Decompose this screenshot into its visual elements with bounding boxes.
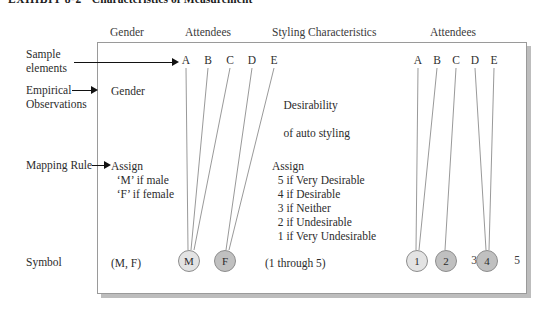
row-label-mapping-rule: Mapping Rule (26, 159, 92, 173)
sample-element-right-b: B (431, 54, 443, 66)
symbol-circle-1: 1 (406, 250, 428, 272)
symbol-circle-2: 2 (435, 250, 457, 272)
symbol-set-left: (M, F) (111, 256, 141, 270)
sample-element-right-c: C (450, 54, 462, 66)
mapping-rule-left: Assign ‘M’ if male ‘F’ if female (111, 159, 174, 201)
row-label-sample-elements: Sample elements (26, 48, 67, 75)
empirical-observation-left: Gender (111, 84, 145, 98)
symbol-circle-4: 4 (476, 250, 498, 272)
exhibit-caption: Characteristics of Measurement (92, 0, 253, 5)
empirical-observation-right-line1: Desirability (284, 99, 338, 111)
row-label-empirical-line1: Empirical (26, 84, 71, 96)
symbol-circle-m: M (178, 250, 200, 272)
column-header-attendees-right: Attendees (430, 26, 476, 38)
exhibit-title: EXHIBIT 8-2Characteristics of Measuremen… (8, 0, 252, 5)
empirical-observation-right: Desirability of auto styling (272, 84, 350, 154)
symbol-plain-5: 5 (511, 254, 523, 266)
sample-element-left-b: B (202, 54, 214, 66)
row-label-sample-elements-line2: elements (26, 62, 67, 74)
mapping-rule-right: Assign 5 if Very Desirable 4 if Desirabl… (272, 159, 376, 243)
sample-element-left-d: D (246, 54, 258, 66)
sample-element-left-c: C (224, 54, 236, 66)
sample-element-left-e: E (268, 54, 280, 66)
column-header-styling-characteristics: Styling Characteristics (272, 26, 376, 38)
exhibit-number: EXHIBIT 8-2 (8, 0, 82, 5)
symbol-circle-f: F (214, 250, 236, 272)
sample-element-right-d: D (469, 54, 481, 66)
row-label-symbol: Symbol (26, 256, 62, 270)
sample-element-left-a: A (180, 54, 192, 66)
leader-line-sample-elements (74, 62, 174, 63)
leader-line-empirical-observations (72, 90, 92, 91)
row-label-empirical-observations: Empirical Observations (26, 84, 87, 111)
sample-element-right-a: A (412, 54, 424, 66)
symbol-set-right: (1 through 5) (265, 256, 326, 270)
arrowhead-mapping-rule (104, 161, 111, 169)
empirical-observation-right-line2: of auto styling (284, 127, 350, 139)
arrowhead-empirical-observations (91, 86, 98, 94)
column-header-attendees-left: Attendees (185, 26, 231, 38)
arrowhead-sample-elements (172, 58, 179, 66)
sample-element-right-e: E (488, 54, 500, 66)
row-label-empirical-line2: Observations (26, 98, 87, 110)
row-label-sample-elements-line1: Sample (26, 48, 61, 60)
exhibit-figure: EXHIBIT 8-2Characteristics of Measuremen… (0, 0, 560, 319)
column-header-gender: Gender (110, 26, 144, 38)
